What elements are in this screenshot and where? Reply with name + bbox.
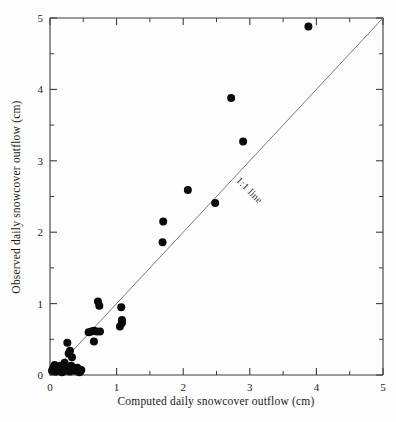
data-point (61, 359, 69, 367)
data-point (184, 186, 192, 194)
x-tick-label: 5 (380, 381, 386, 393)
data-points (48, 23, 312, 377)
x-axis-tick-labels: 012345 (47, 381, 386, 393)
data-point (227, 94, 235, 102)
data-point (75, 368, 83, 376)
data-point (63, 339, 71, 347)
y-axis-tick-labels: 012345 (38, 12, 44, 381)
x-tick-label: 3 (247, 381, 253, 393)
data-point (239, 138, 247, 146)
y-tick-label: 0 (38, 369, 44, 381)
y-tick-label: 1 (38, 298, 44, 310)
y-tick-label: 3 (38, 155, 44, 167)
data-point (117, 303, 125, 311)
identity-reference-line (50, 18, 383, 375)
y-axis-title: Observed daily snowcover outflow (cm) (10, 100, 23, 293)
x-tick-label: 0 (47, 381, 53, 393)
data-point (95, 302, 103, 310)
y-tick-label: 2 (38, 226, 44, 238)
scatter-plot-figure: 012345 012345 1:1 line Computed daily sn… (0, 0, 396, 422)
plot-canvas: 012345 012345 1:1 line Computed daily sn… (0, 0, 396, 422)
data-point (96, 327, 104, 335)
data-point (118, 316, 126, 324)
data-point (90, 337, 98, 345)
identity-line-annotation: 1:1 line (234, 175, 265, 206)
y-tick-label: 5 (38, 12, 44, 24)
data-point (304, 23, 312, 31)
data-point (159, 217, 167, 225)
y-tick-label: 4 (38, 83, 44, 95)
x-tick-label: 4 (314, 381, 320, 393)
x-tick-label: 1 (114, 381, 120, 393)
x-tick-label: 2 (180, 381, 186, 393)
data-point (211, 199, 219, 207)
data-point (159, 238, 167, 246)
x-axis-title: Computed daily snowcover outflow (cm) (117, 395, 314, 408)
data-point (68, 353, 76, 361)
